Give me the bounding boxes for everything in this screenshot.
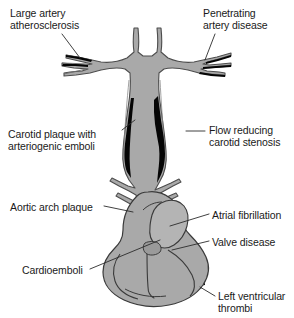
label-line-2: atherosclerosis xyxy=(10,19,79,31)
label-valve-disease: Valve disease xyxy=(212,236,275,248)
label-cardioemboli: Cardioemboli xyxy=(22,264,83,276)
label-aortic-arch-plaque: Aortic arch plaque xyxy=(10,201,93,213)
label-line-1: Valve disease xyxy=(212,236,275,248)
label-line-1: Atrial fibrillation xyxy=(212,209,281,221)
label-line-2: artery disease xyxy=(203,19,268,31)
label-left-ventricular-thrombi: Left ventricularthrombi xyxy=(218,290,285,315)
label-atrial-fibrillation: Atrial fibrillation xyxy=(212,209,281,221)
stroke-source-diagram: Large arteryatherosclerosis Penetratinga… xyxy=(0,0,294,318)
leader-penetrating-artery-disease xyxy=(205,34,215,60)
label-line-1: Cardioemboli xyxy=(22,264,83,276)
label-line-1: Left ventricular xyxy=(218,290,285,302)
label-line-2: arteriogenic emboli xyxy=(8,140,95,152)
label-large-artery-atherosclerosis: Large arteryatherosclerosis xyxy=(10,7,79,32)
label-line-2: carotid stenosis xyxy=(209,136,280,148)
leader-large-artery-atherosclerosis xyxy=(62,34,80,58)
label-line-1: Flow reducing xyxy=(209,124,273,136)
label-line-1: Large artery xyxy=(10,7,65,19)
label-penetrating-artery-disease: Penetratingartery disease xyxy=(203,7,268,32)
label-line-1: Aortic arch plaque xyxy=(10,201,93,213)
leader-left-ventricular-thrombi xyxy=(200,287,215,296)
label-line-1: Penetrating xyxy=(203,7,256,19)
label-line-2: thrombi xyxy=(218,302,252,314)
label-flow-reducing-carotid-stenosis: Flow reducingcarotid stenosis xyxy=(209,124,280,149)
label-line-1: Carotid plaque with xyxy=(8,128,96,140)
label-carotid-plaque-with-arteriogenic-emboli: Carotid plaque witharteriogenic emboli xyxy=(8,128,96,153)
